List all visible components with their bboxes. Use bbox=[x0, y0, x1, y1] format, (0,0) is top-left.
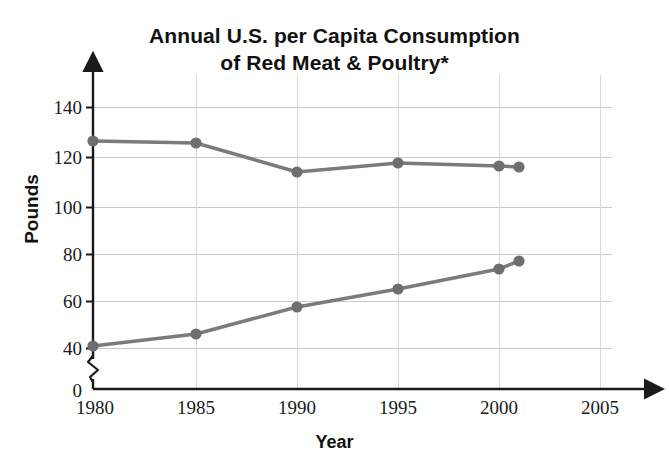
data-point-poultry-1995 bbox=[392, 283, 403, 294]
data-point-poultry-2001 bbox=[513, 255, 524, 266]
data-point-poultry-1990 bbox=[291, 301, 302, 312]
plot-area bbox=[0, 0, 669, 466]
data-point-poultry-2000 bbox=[493, 263, 504, 274]
data-point-red-meat-1995 bbox=[392, 157, 403, 168]
data-point-red-meat-2000 bbox=[493, 160, 504, 171]
data-point-red-meat-1985 bbox=[190, 137, 201, 148]
data-point-poultry-1980 bbox=[87, 340, 98, 351]
data-point-poultry-1985 bbox=[190, 328, 201, 339]
gridlines-vertical bbox=[197, 75, 601, 388]
data-point-red-meat-1980 bbox=[87, 135, 98, 146]
series-red-meat bbox=[87, 135, 524, 177]
data-point-red-meat-2001 bbox=[513, 161, 524, 172]
chart-figure: Annual U.S. per Capita Consumption of Re… bbox=[0, 0, 669, 466]
data-point-red-meat-1990 bbox=[291, 166, 302, 177]
series-poultry bbox=[87, 255, 524, 351]
